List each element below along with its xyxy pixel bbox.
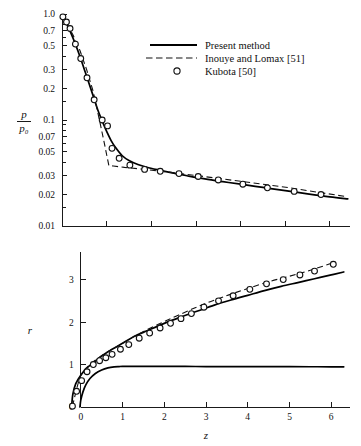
- data-point-marker: [70, 403, 76, 409]
- y-axis-title: r: [28, 324, 33, 336]
- data-point-marker: [105, 123, 111, 129]
- data-point-marker: [280, 277, 286, 283]
- data-point-marker: [216, 298, 222, 304]
- y-tick-label: 0.07: [38, 132, 55, 142]
- legend-item-label: Kubota [50]: [205, 66, 256, 77]
- data-point-marker: [118, 346, 124, 352]
- y-tick-label: 0.2: [43, 84, 55, 94]
- data-point-marker: [142, 166, 148, 172]
- data-point-marker: [91, 97, 97, 103]
- data-point-marker: [176, 171, 182, 177]
- data-point-marker: [103, 355, 109, 361]
- scientific-figure: 1.00.70.50.30.20.10.070.050.030.020.01pp…: [0, 0, 361, 446]
- y-tick-label: 0.01: [38, 221, 55, 231]
- data-point-marker: [116, 155, 122, 161]
- x-tick-label: 4: [245, 412, 250, 422]
- x-tick-label: 1: [120, 412, 125, 422]
- data-point-marker: [230, 293, 236, 299]
- legend-circle-sample: [174, 68, 180, 74]
- data-point-marker: [264, 281, 270, 287]
- data-point-marker: [84, 75, 90, 81]
- data-point-marker: [84, 369, 90, 375]
- pressure-ratio-chart: 1.00.70.50.30.20.10.070.050.030.020.01pp…: [17, 9, 350, 231]
- data-point-marker: [291, 189, 297, 195]
- data-point-marker: [136, 335, 142, 341]
- data-point-marker: [64, 19, 70, 25]
- data-point-marker: [330, 261, 336, 267]
- x-tick-label: 6: [329, 412, 334, 422]
- y-tick-label: 1.0: [43, 9, 55, 19]
- y-tick-label: 0.02: [38, 190, 55, 200]
- data-point-marker: [201, 304, 207, 310]
- data-point-marker: [90, 362, 96, 368]
- data-point-marker: [188, 311, 194, 317]
- figure-canvas: 1.00.70.50.30.20.10.070.050.030.020.01pp…: [0, 0, 361, 446]
- y-tick-label: 3: [69, 275, 74, 285]
- data-point-marker: [127, 162, 133, 168]
- data-point-marker: [240, 181, 246, 187]
- solid-curve: [80, 366, 344, 407]
- y-tick-label: 0.03: [38, 171, 55, 181]
- data-point-marker: [168, 320, 174, 326]
- data-point-marker: [99, 117, 105, 123]
- data-point-marker: [157, 168, 163, 174]
- data-point-marker: [73, 41, 79, 47]
- legend-item-label: Inouye and Lomax [51]: [205, 53, 304, 64]
- y-tick-label: 0.5: [43, 41, 55, 51]
- solid-curve: [72, 272, 344, 407]
- x-tick-label: 3: [204, 412, 209, 422]
- data-point-marker: [215, 177, 221, 183]
- y-axis-title-numerator: p: [20, 108, 27, 120]
- y-tick-label: 0.3: [43, 65, 55, 75]
- dashed-curve: [62, 15, 346, 196]
- data-point-marker: [247, 286, 253, 292]
- y-tick-label: 0.7: [43, 26, 55, 36]
- shock-radius-chart: 01230123456zr: [28, 252, 350, 441]
- x-tick-label: 0: [78, 412, 83, 422]
- x-tick-label: 5: [287, 412, 292, 422]
- data-point-marker: [109, 145, 115, 151]
- data-point-marker: [74, 388, 80, 394]
- data-point-marker: [178, 316, 184, 322]
- legend-item-label: Present method: [205, 40, 271, 51]
- y-tick-label: 1: [69, 360, 74, 370]
- data-point-marker: [157, 325, 163, 331]
- data-point-marker: [265, 185, 271, 191]
- data-point-marker: [79, 378, 85, 384]
- data-point-marker: [97, 358, 103, 364]
- data-point-marker: [126, 342, 132, 348]
- data-point-marker: [297, 272, 303, 278]
- data-point-marker: [109, 351, 115, 357]
- data-point-marker: [147, 330, 153, 336]
- y-tick-label: 0.05: [38, 147, 55, 157]
- data-point-marker: [312, 268, 318, 274]
- legend: Present methodInouye and Lomax [51]Kubot…: [146, 40, 304, 77]
- data-point-marker: [318, 192, 324, 198]
- y-tick-label: 0.1: [43, 115, 55, 125]
- x-tick-label: 2: [162, 412, 167, 422]
- data-point-marker: [195, 174, 201, 180]
- x-axis-title: z: [203, 429, 209, 441]
- data-point-marker: [60, 14, 66, 20]
- data-point-marker: [67, 26, 73, 32]
- data-point-marker: [78, 56, 84, 62]
- y-tick-label: 2: [69, 318, 74, 328]
- y-axis-title-denominator: p₀: [18, 122, 29, 134]
